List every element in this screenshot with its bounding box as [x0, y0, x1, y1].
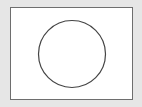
diagram-canvas [0, 0, 142, 107]
circle-shape [39, 21, 106, 88]
